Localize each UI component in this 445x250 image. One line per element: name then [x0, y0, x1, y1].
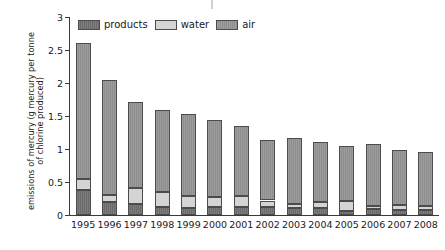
y-tick-label: 2.5	[48, 45, 63, 56]
x-tick-label-2005: 2005	[335, 219, 359, 230]
bar-segment-water-2003	[287, 204, 302, 208]
x-tick-label-2004: 2004	[308, 219, 332, 230]
bar-segment-air-1997	[128, 102, 143, 188]
bar-segment-water-2006	[366, 206, 381, 209]
bar-segment-products-1995	[76, 190, 91, 215]
y-tick-label: 1.5	[48, 111, 63, 122]
bar-2005	[339, 146, 354, 215]
bar-segment-air-1998	[155, 110, 170, 192]
bar-segment-products-1999	[181, 208, 196, 215]
x-tick-label-2006: 2006	[361, 219, 385, 230]
legend-item-air: air	[216, 19, 255, 30]
y-tick-mark	[65, 50, 69, 51]
bar-segment-products-2004	[313, 208, 328, 215]
bar-segment-water-1997	[128, 188, 143, 204]
y-tick-label: 0.5	[48, 177, 63, 188]
bar-segment-products-1996	[102, 202, 117, 215]
bar-segment-water-2002	[260, 201, 275, 208]
bar-segment-products-2008	[418, 210, 433, 215]
bar-segment-water-2004	[313, 202, 328, 209]
bar-segment-products-2000	[207, 207, 222, 215]
bar-segment-air-2001	[234, 126, 249, 196]
bar-group	[70, 17, 439, 215]
bar-1995	[76, 43, 91, 215]
x-tick-label-1997: 1997	[124, 219, 148, 230]
x-tick-label-1999: 1999	[177, 219, 201, 230]
legend-swatch-air	[216, 20, 238, 30]
bar-2000	[207, 120, 222, 215]
bar-segment-products-2007	[392, 210, 407, 215]
bar-segment-water-2005	[339, 201, 354, 211]
legend-swatch-products	[78, 20, 100, 30]
bar-segment-water-2007	[392, 205, 407, 210]
bar-2008	[418, 152, 433, 215]
y-axis-title-line-2: of chlorine produced)	[36, 77, 45, 165]
x-tick-label-2002: 2002	[256, 219, 280, 230]
y-tick-mark	[65, 116, 69, 117]
x-tick-label-2008: 2008	[414, 219, 438, 230]
chart-legend: productswaterair	[78, 19, 255, 30]
plot-area: 00.511.522.53	[69, 17, 439, 215]
bar-segment-water-1996	[102, 195, 117, 202]
x-tick-label-1998: 1998	[150, 219, 174, 230]
bar-segment-air-2005	[339, 146, 354, 201]
bar-segment-products-2002	[260, 207, 275, 215]
bar-segment-air-2008	[418, 152, 433, 205]
bar-2002	[260, 140, 275, 215]
bar-2007	[392, 150, 407, 215]
legend-swatch-water	[155, 20, 177, 30]
legend-item-water: water	[155, 19, 210, 30]
bar-segment-air-2003	[287, 138, 302, 204]
bar-segment-water-2008	[418, 206, 433, 210]
x-tick-label-1995: 1995	[71, 219, 95, 230]
bar-segment-products-1997	[128, 204, 143, 215]
bar-segment-air-2004	[313, 142, 328, 202]
bar-1998	[155, 110, 170, 215]
y-tick-mark	[65, 215, 69, 216]
legend-label-air: air	[242, 19, 255, 30]
bar-segment-air-2002	[260, 140, 275, 200]
legend-label-water: water	[181, 19, 210, 30]
bar-segment-water-1998	[155, 192, 170, 207]
bar-segment-air-2000	[207, 120, 222, 197]
y-tick-mark	[65, 149, 69, 150]
bar-segment-products-1998	[155, 207, 170, 215]
legend-label-products: products	[104, 19, 148, 30]
bar-segment-air-2006	[366, 144, 381, 205]
bar-1997	[128, 101, 143, 215]
x-tick-label-2003: 2003	[282, 219, 306, 230]
y-tick-mark	[65, 17, 69, 18]
x-tick-label-1996: 1996	[97, 219, 121, 230]
scan-artifact-mark	[211, 0, 213, 9]
bar-segment-products-2005	[339, 211, 354, 215]
bar-1996	[102, 80, 117, 215]
bar-segment-water-1999	[181, 196, 196, 208]
bar-segment-products-2006	[366, 209, 381, 215]
y-tick-label: 2	[57, 78, 63, 89]
y-tick-mark	[65, 83, 69, 84]
bar-segment-water-1995	[76, 179, 91, 190]
x-tick-label-2001: 2001	[229, 219, 253, 230]
x-tick-label-2007: 2007	[387, 219, 411, 230]
y-tick-label: 1	[57, 144, 63, 155]
bar-segment-water-2000	[207, 197, 222, 208]
x-axis-tick-labels: 1995199619971998199920002001200220032004…	[69, 219, 439, 235]
y-tick-label: 0	[57, 210, 63, 221]
bar-segment-products-2001	[234, 207, 249, 215]
legend-item-products: products	[78, 19, 148, 30]
bar-2003	[287, 138, 302, 215]
bar-2004	[313, 142, 328, 215]
bar-2001	[234, 126, 249, 215]
chart-figure: emissions of mercury (g mercury per tonn…	[0, 0, 445, 250]
x-tick-label-2000: 2000	[203, 219, 227, 230]
x-axis-line	[69, 215, 439, 216]
y-tick-mark	[65, 182, 69, 183]
y-tick-label: 3	[57, 12, 63, 23]
bar-segment-air-1995	[76, 43, 91, 180]
bar-2006	[366, 144, 381, 215]
bar-1999	[181, 114, 196, 215]
bar-segment-air-1999	[181, 114, 196, 196]
bar-segment-water-2001	[234, 196, 249, 207]
bar-segment-products-2003	[287, 208, 302, 215]
bar-segment-air-1996	[102, 80, 117, 195]
